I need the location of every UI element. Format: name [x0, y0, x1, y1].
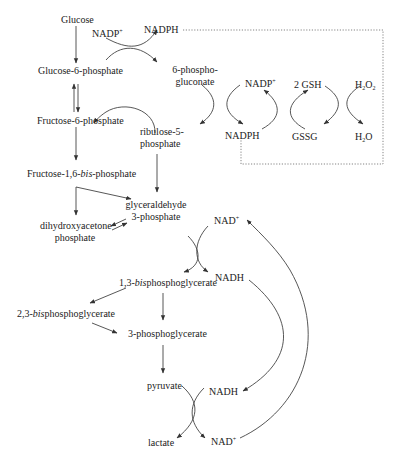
arrow-nad-to-nadh: [197, 226, 208, 272]
cofactor-2-gsh: 2 GSH: [294, 79, 322, 91]
arrow-h2o2-to-h2o: [347, 86, 363, 124]
node-3-phosphoglycerate: 3-phosphoglycerate: [128, 328, 207, 340]
arrow-nadph-to-nadp: [262, 90, 277, 129]
node-fructose-16-bisphosphate: Fructose-1,6-bis-phosphate: [27, 168, 136, 180]
cofactor-nad-plus-lower: NAD+: [211, 436, 236, 448]
dotted-nadph-link: [183, 30, 383, 164]
node-fructose-6-phosphate: Fructose-6-phosphate: [37, 115, 124, 127]
cofactor-nad-plus-upper: NAD+: [214, 215, 239, 227]
node-23-bisphosphoglycerate: 2,3-bisphosphoglycerate: [17, 308, 115, 320]
arrow-g3p-to-13bpg: [184, 236, 198, 272]
cofactor-h2o: H2O: [355, 131, 372, 143]
node-glucose: Glucose: [61, 14, 94, 26]
arrow-gssg-to-gsh: [290, 90, 308, 129]
node-glyceraldehyde-3-phosphate: glyceraldehyde 3-phosphate: [124, 199, 188, 223]
cofactor-nadh-upper: NADH: [215, 272, 244, 284]
node-13-bisphosphoglycerate: 1,3-bisphosphoglycerate: [119, 277, 217, 289]
arrow-6pg-to-ru5p: [200, 85, 214, 124]
cofactor-nadh-lower: NADH: [209, 386, 238, 398]
node-6-phosphogluconate: 6-phospho- gluconate: [160, 64, 230, 88]
cofactor-nadph-top: NADPH: [144, 24, 178, 36]
arrow-g6p-to-6pg: [106, 48, 157, 62]
node-ribulose-5-phosphate: ribulose-5- phosphate: [140, 126, 184, 150]
node-pyruvate: pyruvate: [147, 380, 182, 392]
arrow-23bpg-to-3pg: [92, 323, 117, 333]
cofactor-nadp-plus-top: NADP+: [92, 28, 123, 40]
arrow-nadp-to-nadph-cycle: [227, 85, 243, 124]
node-lactate: lactate: [148, 437, 174, 449]
cofactor-h2o2: H2O2: [355, 79, 375, 91]
arrow-nadh-to-nad: [192, 388, 205, 438]
metabolic-pathway-diagram: Glucose Glucose-6-phosphate Fructose-6-p…: [0, 0, 403, 467]
node-glucose-6-phosphate: Glucose-6-phosphate: [38, 65, 123, 77]
cofactor-nadp-plus-cycle: NADP+: [245, 78, 276, 90]
arrow-gsh-to-gssg: [324, 86, 338, 124]
arrow-nad-regeneration: [240, 220, 308, 438]
cofactor-nadph-cycle: NADPH: [225, 130, 259, 142]
arrow-13bpg-to-23bpg: [90, 288, 126, 303]
node-dihydroxyacetone-phosphate: dihydroxyacetone phosphate: [40, 220, 110, 244]
cofactor-gssg: GSSG: [292, 131, 318, 143]
arrow-nadh-regeneration: [243, 280, 284, 391]
arrow-f16bp-to-g3p: [76, 187, 131, 199]
